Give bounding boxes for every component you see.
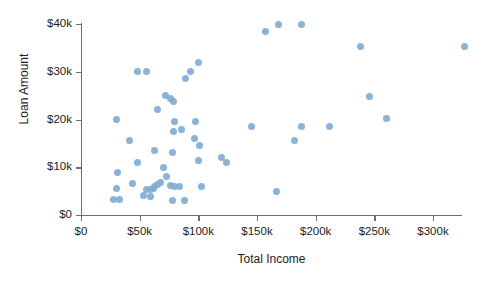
scatter-point [178, 126, 185, 133]
x-axis-tick [81, 216, 82, 221]
scatter-point [154, 106, 161, 113]
scatter-point [151, 147, 158, 154]
x-axis-line [81, 215, 462, 216]
scatter-point [187, 68, 194, 75]
scatter-point [134, 159, 141, 166]
scatter-point [169, 197, 176, 204]
scatter-point [357, 43, 364, 50]
scatter-point [326, 123, 333, 130]
x-axis-tick [198, 216, 199, 221]
scatter-point [383, 115, 390, 122]
scatter-point [275, 21, 282, 28]
scatter-point [126, 137, 133, 144]
scatter-point [191, 135, 198, 142]
x-axis-tick [140, 216, 141, 221]
scatter-point [366, 93, 373, 100]
scatter-point [223, 159, 230, 166]
scatter-point [298, 21, 305, 28]
x-axis-tick-label: $150k [241, 226, 272, 238]
scatter-point [196, 142, 203, 149]
scatter-point [182, 75, 189, 82]
x-axis-title: Total Income [81, 252, 462, 266]
scatter-point [129, 180, 136, 187]
x-axis-tick-label: $200k [300, 226, 331, 238]
x-axis-tick-label: $0 [75, 226, 88, 238]
scatter-point [181, 197, 188, 204]
scatter-point [140, 192, 147, 199]
scatter-point [116, 196, 123, 203]
scatter-point [195, 59, 202, 66]
scatter-point [170, 98, 177, 105]
x-axis-tick [316, 216, 317, 221]
x-axis-tick-label: $250k [359, 226, 390, 238]
scatter-point [160, 164, 167, 171]
scatter-point [143, 68, 150, 75]
scatter-point [163, 173, 170, 180]
scatter-point [273, 188, 280, 195]
x-axis-tick [433, 216, 434, 221]
scatter-point [170, 128, 177, 135]
scatter-point [262, 28, 269, 35]
scatter-point [298, 123, 305, 130]
scatter-point [113, 116, 120, 123]
x-axis-tick [257, 216, 258, 221]
plot-area [81, 16, 462, 215]
x-axis-tick-label: $50k [127, 226, 152, 238]
y-axis-tick-label: $20k [47, 114, 72, 126]
y-axis-tick-label: $0 [59, 209, 72, 221]
scatter-point [461, 43, 468, 50]
scatter-point [147, 193, 154, 200]
scatter-point [134, 68, 141, 75]
y-axis-tick-label: $10k [47, 161, 72, 173]
y-axis-tick-label: $30k [47, 66, 72, 78]
scatter-point [195, 157, 202, 164]
scatter-point [192, 118, 199, 125]
scatter-plot-figure: Loan Amount Total Income $0$10k$20k$30k$… [0, 0, 488, 281]
scatter-point [169, 149, 176, 156]
scatter-point [248, 123, 255, 130]
scatter-point [198, 183, 205, 190]
scatter-point [113, 185, 120, 192]
x-axis-tick-label: $100k [183, 226, 214, 238]
scatter-point [171, 118, 178, 125]
y-axis-tick-labels: $0$10k$20k$30k$40k [0, 0, 72, 281]
x-axis-tick-label: $300k [417, 226, 448, 238]
y-axis-tick-label: $40k [47, 18, 72, 30]
scatter-point [114, 169, 121, 176]
scatter-point [157, 179, 164, 186]
scatter-point [176, 183, 183, 190]
x-axis-tick [374, 216, 375, 221]
scatter-point [291, 137, 298, 144]
